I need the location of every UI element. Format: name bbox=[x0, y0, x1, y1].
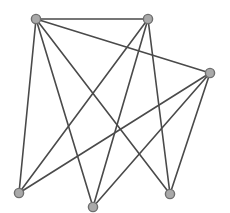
node-n2 bbox=[143, 14, 152, 23]
node-n6 bbox=[165, 189, 174, 198]
graph-diagram bbox=[0, 0, 230, 213]
node-n1 bbox=[31, 14, 40, 23]
node-n5 bbox=[88, 202, 97, 211]
node-n3 bbox=[205, 68, 214, 77]
node-n4 bbox=[14, 188, 23, 197]
